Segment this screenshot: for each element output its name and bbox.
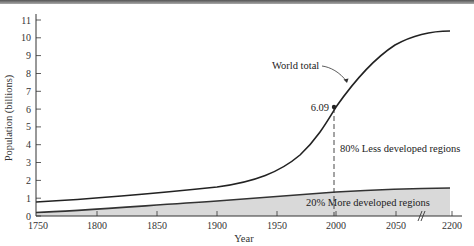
world-total-curve [36, 31, 450, 202]
x-tick-2050: 2050 [386, 220, 406, 231]
x-tick-2000: 2000 [326, 220, 346, 231]
y-tick-7: 7 [26, 86, 31, 97]
y-tick-2: 2 [26, 175, 31, 186]
y-tick-5: 5 [26, 121, 31, 132]
x-tick-2200: 2200 [442, 220, 462, 231]
x-tick-1950: 1950 [267, 220, 287, 231]
y-tick-4: 4 [26, 139, 31, 150]
more-developed-label: 20% More developed regions [306, 197, 430, 208]
world-total-arrow-icon [322, 66, 347, 82]
x-tick-1900: 1900 [207, 220, 227, 231]
y-ticks [36, 20, 41, 216]
y-axis-title: Population (billions) [3, 74, 15, 161]
x-tick-labels: 1750 1800 1850 1900 1950 2000 2050 2200 [28, 220, 462, 231]
x-tick-1800: 1800 [87, 220, 107, 231]
data-point-2000 [332, 105, 336, 109]
y-tick-3: 3 [26, 157, 31, 168]
world-total-label: World total [272, 60, 319, 71]
x-tick-1850: 1850 [147, 220, 167, 231]
y-tick-8: 8 [26, 68, 31, 79]
y-tick-labels: 0 1 2 3 4 5 6 7 8 9 10 11 [21, 15, 31, 222]
y-tick-1: 1 [26, 193, 31, 204]
value-label-2000: 6.09 [311, 102, 329, 113]
less-developed-label: 80% Less developed regions [340, 143, 460, 154]
y-tick-11: 11 [21, 15, 31, 26]
population-chart: 0 1 2 3 4 5 6 7 8 9 10 11 1750 1800 1850… [0, 0, 474, 246]
x-axis-title: Year [234, 233, 254, 244]
y-tick-6: 6 [26, 104, 31, 115]
x-tick-1750: 1750 [28, 220, 48, 231]
arrowhead-icon [344, 79, 349, 84]
y-tick-9: 9 [26, 50, 31, 61]
y-tick-10: 10 [21, 32, 31, 43]
